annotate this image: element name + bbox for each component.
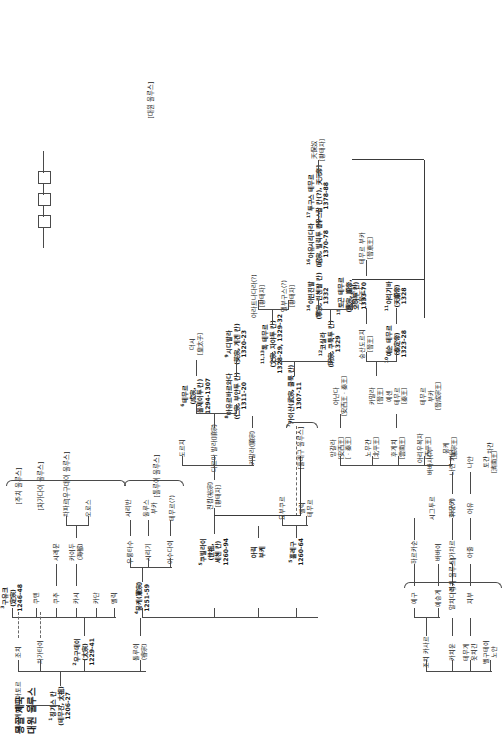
node-hula: 후라(?) <box>448 498 456 518</box>
node-line: 1323-28 <box>400 325 408 363</box>
connector-line <box>450 456 451 466</box>
node-line: 더시 <box>188 333 196 355</box>
node-temur_buqa: 테무르부카[晉成宗王] <box>419 382 442 410</box>
node-order-number: 9 <box>224 355 229 358</box>
connector-line <box>296 526 297 538</box>
node-line-with-number: 5쿠빌라이 <box>198 538 207 566</box>
node-melik: 멜릭 <box>110 592 118 604</box>
connector-line <box>182 456 183 466</box>
node-deshi: 더시[皇太子] <box>188 333 203 355</box>
connector-line <box>282 516 283 526</box>
node-line: 카이샨(武宗, 쿨룩 칸) <box>287 365 294 424</box>
connector-line <box>282 525 308 526</box>
connector-line <box>18 671 146 672</box>
node-line: 망갈라 <box>329 437 337 459</box>
connector-line <box>214 508 215 534</box>
node-line: 바바이 <box>434 543 442 561</box>
node-line: [濟南王] <box>490 451 498 473</box>
node-line: 시레문 <box>52 543 60 561</box>
connector-line <box>140 660 141 672</box>
node-nayan2: 나얀 <box>466 456 474 468</box>
unnamed-generation-box <box>38 215 51 228</box>
node-line: 테무르 <box>392 387 400 405</box>
connector-line <box>306 516 307 526</box>
node-line: 테무르(?) <box>168 495 176 521</box>
node-line: 테무게 <box>462 643 470 661</box>
connector-line <box>36 608 37 618</box>
node-order-number: 14 <box>306 305 311 311</box>
connector-line <box>296 608 297 618</box>
node-jesugei: 예수게이 바아토르 <box>14 681 22 730</box>
node-line: 토간 <box>482 451 490 473</box>
node-order-number: 5 <box>288 560 293 563</box>
node-line: 1246-48 <box>16 584 24 612</box>
connector-line <box>452 660 453 672</box>
node-line: 테무르 <box>181 385 188 403</box>
node-line: 1260-64 <box>297 538 305 566</box>
node-toqan: 토간[濟南王] <box>482 451 497 473</box>
node-shiremun: 시레문 <box>52 543 60 561</box>
connector-line <box>196 413 236 414</box>
node-line: 이린친발 <box>307 281 314 305</box>
node-hachiun: 카치운 <box>448 643 456 661</box>
connector-line <box>26 705 60 706</box>
node-line: [晉恵王] <box>366 232 374 263</box>
unnamed-generation-box <box>38 171 51 184</box>
connector-line <box>272 352 273 362</box>
node-line: 아릭 <box>250 546 258 558</box>
node-line: 아유 <box>466 502 474 514</box>
connector-line-dashed <box>18 612 19 638</box>
node-chakan: 차간 <box>486 442 494 454</box>
node-line: 1328 <box>400 281 408 311</box>
connector-line <box>366 308 367 324</box>
connector-line <box>340 456 341 466</box>
node-line: 코실라 <box>319 332 326 350</box>
connector-line <box>470 618 471 636</box>
node-line: 예구 <box>410 592 418 604</box>
node-yesunge: 예승게 <box>434 589 442 607</box>
node-ariq: 아릭부케 <box>250 546 265 558</box>
connector-line-major <box>352 159 424 160</box>
node-line: 옷치긴 <box>470 643 478 661</box>
connector-line <box>330 352 331 362</box>
node-line: 天保奴 <box>310 139 318 161</box>
node-chabar: 차파르 <box>62 499 70 517</box>
node-kadan: 카단 <box>92 592 100 604</box>
node-line: 아줄 <box>466 546 474 558</box>
node-line: 카단 <box>92 592 100 604</box>
connector-line <box>196 404 197 414</box>
group-label: [차가다이 울루스] <box>36 461 45 510</box>
connector-line <box>398 456 399 466</box>
connector-line <box>43 151 44 173</box>
node-line: 1320-23 <box>240 323 248 364</box>
connector-line <box>56 608 57 618</box>
node-line: 1378-88 <box>322 165 330 227</box>
node-line: 시그투르 <box>428 496 436 520</box>
node-dorji: 도르지 <box>178 439 186 457</box>
node-line: 엘부구스(?) <box>280 280 288 311</box>
connector-line <box>424 456 425 466</box>
node-line: 1206-27 <box>64 686 72 725</box>
connector-line <box>340 414 341 428</box>
node-line: [安西王ㆍ秦王] <box>340 376 348 416</box>
connector-line <box>43 206 44 217</box>
node-line: 카시 <box>72 592 80 604</box>
node-order-number: 3 <box>0 606 5 609</box>
node-line: [晉王] <box>358 284 366 308</box>
connector-line <box>236 360 237 376</box>
node-ayushi: 16아유시리다라(昭宗, 빌릭투 칸)1370-78 <box>306 220 330 267</box>
node-line: 카치운 <box>448 643 456 661</box>
node-line: (世祖, <box>207 538 215 566</box>
connector-line <box>426 660 427 672</box>
node-line: 1370-78 <box>322 220 330 267</box>
node-line: 차간 <box>486 442 494 454</box>
connector-line <box>130 520 131 536</box>
node-line: (海都) <box>76 543 84 561</box>
node-line: 아리기바 <box>385 281 392 305</box>
node-order-number: 11 <box>384 305 389 311</box>
node-line: 아리우복자 <box>416 433 424 463</box>
node-line: 부카 <box>426 382 434 410</box>
node-line: 아난다 <box>332 376 340 416</box>
connector-line <box>470 518 471 540</box>
